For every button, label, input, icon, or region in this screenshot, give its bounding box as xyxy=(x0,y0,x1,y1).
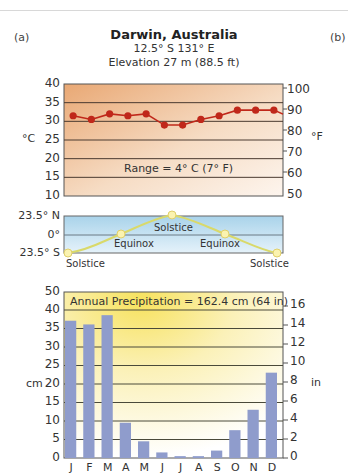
label-solstice-dec-left: Solstice xyxy=(66,258,105,269)
tick-in-10: 10 xyxy=(290,354,305,368)
month-label: A xyxy=(190,461,208,474)
label-equinox-sept: Equinox xyxy=(200,238,240,249)
tick-cm-40: 40 xyxy=(36,302,60,316)
precipitation-bar xyxy=(138,441,149,458)
month-label: M xyxy=(99,461,117,474)
month-label: M xyxy=(135,461,153,474)
month-label: N xyxy=(245,461,263,474)
month-label: O xyxy=(226,461,244,474)
precipitation-bar xyxy=(83,324,94,458)
sun-label-south: 23.5° S xyxy=(4,246,60,259)
unit-cm: cm xyxy=(26,377,43,390)
tick-cm-10: 10 xyxy=(36,413,60,427)
temperature-chart xyxy=(64,84,287,196)
tick-f-60: 60 xyxy=(287,166,302,180)
temperature-point xyxy=(216,112,223,119)
tick-c-35: 35 xyxy=(36,95,60,109)
tick-c-40: 40 xyxy=(36,76,60,90)
temperature-point xyxy=(197,116,204,123)
tick-cm-30: 30 xyxy=(36,339,60,353)
tick-in-4: 4 xyxy=(290,411,298,425)
tick-f-90: 90 xyxy=(287,103,302,117)
month-label: J xyxy=(172,461,190,474)
tick-in-12: 12 xyxy=(290,335,305,349)
precipitation-bar xyxy=(156,452,167,458)
temperature-point xyxy=(161,121,168,128)
precipitation-bar xyxy=(120,423,131,458)
precipitation-chart xyxy=(64,292,288,458)
tick-cm-35: 35 xyxy=(36,320,60,334)
temperature-point xyxy=(70,112,77,119)
month-label: J xyxy=(62,461,80,474)
precipitation-bar xyxy=(65,321,76,458)
temperature-point xyxy=(179,121,186,128)
precipitation-bar xyxy=(229,430,240,458)
tick-in-0: 0 xyxy=(290,449,298,463)
unit-celsius: °C xyxy=(22,132,35,145)
tick-cm-5: 5 xyxy=(36,431,60,445)
precipitation-bar xyxy=(266,373,277,458)
label-solstice-dec-right: Solstice xyxy=(250,258,289,269)
temperature-point xyxy=(88,116,95,123)
tick-f-100: 100 xyxy=(287,82,310,96)
month-label: S xyxy=(208,461,226,474)
sun-position-chart xyxy=(64,211,283,257)
tick-c-30: 30 xyxy=(36,113,60,127)
label-equinox-march: Equinox xyxy=(114,238,154,249)
temperature-point xyxy=(234,107,241,114)
tick-in-2: 2 xyxy=(290,430,298,444)
month-label: D xyxy=(263,461,281,474)
tick-cm-15: 15 xyxy=(36,394,60,408)
tick-in-14: 14 xyxy=(290,316,305,330)
tick-c-15: 15 xyxy=(36,169,60,183)
tick-cm-25: 25 xyxy=(36,357,60,371)
annual-precipitation-label: Annual Precipitation = 162.4 cm (64 in) xyxy=(70,295,288,308)
tick-cm-0: 0 xyxy=(36,450,60,464)
tick-in-8: 8 xyxy=(290,373,298,387)
tick-f-50: 50 xyxy=(287,187,302,201)
temperature-point xyxy=(124,112,131,119)
tick-cm-50: 50 xyxy=(36,284,60,298)
label-solstice-june: Solstice xyxy=(154,222,193,233)
month-label: J xyxy=(153,461,171,474)
tick-c-10: 10 xyxy=(36,188,60,202)
temperature-point xyxy=(106,110,113,117)
tick-c-25: 25 xyxy=(36,132,60,146)
tick-f-80: 80 xyxy=(287,124,302,138)
precipitation-bar xyxy=(175,456,186,458)
precipitation-bar xyxy=(211,451,222,458)
unit-in: in xyxy=(311,376,321,389)
unit-fahrenheit: °F xyxy=(311,130,323,143)
sun-label-north: 23.5° N xyxy=(4,209,60,222)
temperature-point xyxy=(270,107,277,114)
tick-f-70: 70 xyxy=(287,145,302,159)
tick-c-20: 20 xyxy=(36,151,60,165)
temperature-point xyxy=(143,110,150,117)
precipitation-bar xyxy=(248,410,259,458)
temperature-point xyxy=(252,107,259,114)
precipitation-bar xyxy=(193,456,204,458)
temperature-range-label: Range = 4° C (7° F) xyxy=(124,162,233,175)
precipitation-bar xyxy=(102,315,113,458)
tick-in-6: 6 xyxy=(290,392,298,406)
tick-in-16: 16 xyxy=(290,297,305,311)
sun-label-equator: 0° xyxy=(4,228,60,241)
month-label: A xyxy=(117,461,135,474)
month-label: F xyxy=(80,461,98,474)
